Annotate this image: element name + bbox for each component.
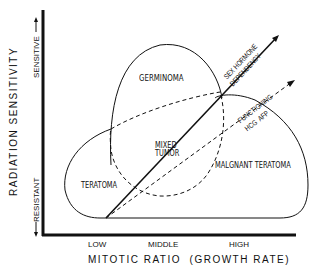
y-axis-resistant-label: RESISTANT bbox=[32, 178, 41, 222]
resistant-arrow-icon bbox=[34, 232, 38, 237]
teratoma-outline bbox=[65, 95, 308, 218]
y-axis-sensitive-label: SENSITIVE bbox=[32, 36, 41, 78]
y-axis-title: RADIATION SENSITIVITY bbox=[8, 47, 19, 196]
mixed-tumor-label-line2: TUMOR bbox=[155, 148, 179, 158]
functioning-arrowhead-icon bbox=[287, 80, 295, 87]
x-axis-title: MITOTIC RATIO (GROWTH RATE) bbox=[88, 254, 290, 265]
germinoma-label: GERMINOMA bbox=[139, 73, 184, 83]
malignant-teratoma-label: MALGNANT TERATOMA bbox=[215, 160, 291, 170]
diagram-canvas bbox=[0, 0, 323, 272]
x-tick-high: HIGH bbox=[229, 240, 249, 249]
sensitive-arrow-icon bbox=[34, 17, 38, 22]
x-tick-low: LOW bbox=[88, 240, 106, 249]
x-tick-middle: MIDDLE bbox=[148, 240, 178, 249]
teratoma-label: TERATOMA bbox=[81, 180, 117, 190]
